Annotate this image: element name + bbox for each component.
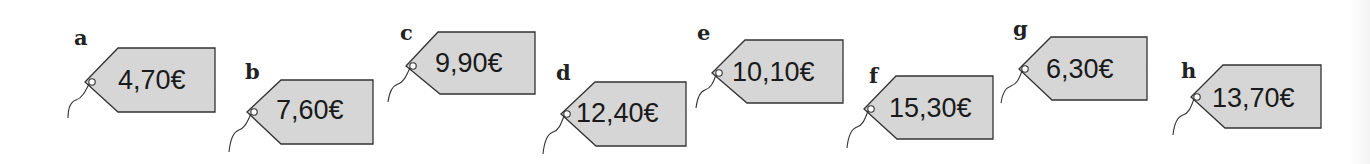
tag-price: 15,30€ xyxy=(889,95,972,122)
tag-price: 9,90€ xyxy=(435,50,503,77)
tag-price: 12,40€ xyxy=(576,100,659,127)
tag-price: 13,70€ xyxy=(1212,85,1295,112)
tag-price: 4,70€ xyxy=(118,67,186,94)
tag-price: 7,60€ xyxy=(276,97,344,124)
tag-price: 6,30€ xyxy=(1046,56,1114,83)
page-edge-shadow xyxy=(1348,0,1370,164)
tag-price: 10,10€ xyxy=(732,59,815,86)
price-tags-figure: a 4,70€ b 7,60€ c 9,90€ d xyxy=(0,0,1370,164)
